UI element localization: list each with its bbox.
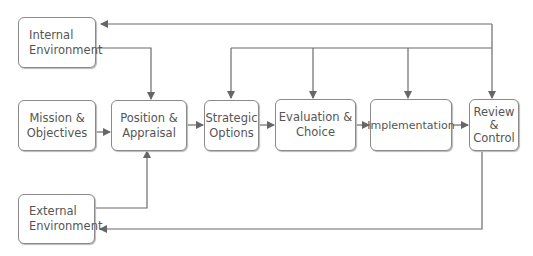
node-label: Control: [473, 132, 515, 145]
node-label: Choice: [279, 125, 352, 140]
review-to-external-arrow: [100, 151, 482, 229]
strategy-process-diagram: InternalEnvironment Mission &Objectives …: [0, 0, 533, 256]
internal-to-position-arrow: [95, 48, 151, 99]
node-implementation: Implementation: [370, 99, 452, 151]
node-label: External: [29, 204, 102, 219]
node-internal-environment: InternalEnvironment: [18, 17, 96, 68]
node-label: Environment: [29, 219, 102, 234]
node-label: Review: [473, 106, 515, 119]
node-label: Environment: [29, 43, 102, 58]
external-to-position-arrow: [94, 151, 147, 208]
node-position-appraisal: Position &Appraisal: [111, 100, 187, 151]
node-mission-objectives: Mission &Objectives: [18, 100, 96, 151]
node-label: Implementation: [367, 118, 454, 133]
node-label: Position &: [120, 111, 177, 126]
node-evaluation-choice: Evaluation &Choice: [275, 99, 356, 151]
node-label: Options: [206, 126, 258, 141]
node-label: Mission &: [27, 111, 88, 126]
node-label: Internal: [29, 28, 102, 43]
node-label: Evaluation &: [279, 110, 352, 125]
node-label: Appraisal: [120, 126, 177, 141]
node-review-control: Review&Control: [469, 99, 519, 151]
node-label: Strategic: [206, 111, 258, 126]
node-label: &: [473, 119, 515, 132]
node-label: Objectives: [27, 126, 88, 141]
node-external-environment: ExternalEnvironment: [18, 194, 95, 244]
node-strategic-options: StrategicOptions: [204, 100, 259, 151]
